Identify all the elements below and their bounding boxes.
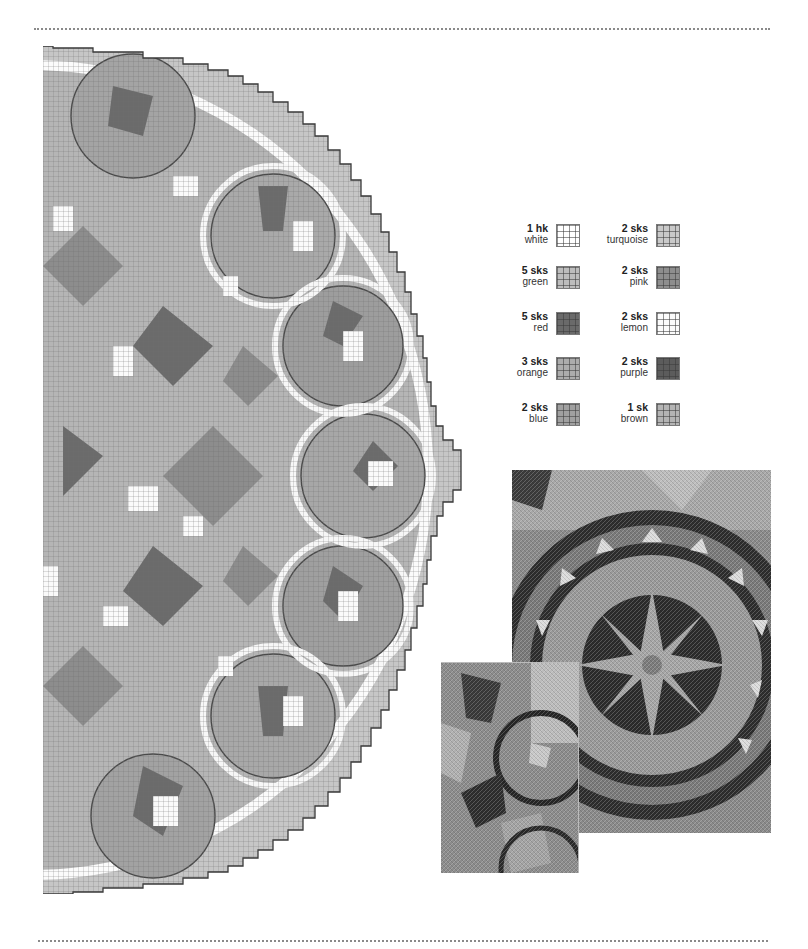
legend-color-name: purple (620, 367, 648, 379)
legend-item-white: 1 hkwhite (500, 222, 580, 252)
legend-qty: 2 sks (622, 264, 648, 276)
legend-item-blue: 2 sksblue (500, 401, 580, 431)
legend-color-name: orange (517, 367, 548, 379)
color-swatch-blue (556, 403, 580, 426)
color-swatch-red (556, 312, 580, 335)
legend-color-name: blue (522, 413, 548, 425)
legend-color-name: red (522, 322, 548, 334)
needlepoint-chart (43, 46, 468, 894)
top-dotted-rule (34, 28, 770, 30)
legend-item-lemon: 2 skslemon (600, 310, 680, 340)
color-swatch-lemon (656, 312, 680, 335)
legend-item-red: 5 sksred (500, 310, 580, 340)
color-swatch-turquoise (656, 224, 680, 247)
legend-item-turquoise: 2 sksturquoise (600, 222, 680, 252)
legend-qty: 2 sks (621, 310, 648, 322)
legend-qty: 3 sks (517, 355, 548, 367)
color-swatch-brown (656, 403, 680, 426)
legend-qty: 5 sks (522, 310, 548, 322)
legend-color-name: green (522, 276, 548, 288)
legend-item-orange: 3 sksorange (500, 355, 580, 385)
legend-color-name: white (525, 234, 548, 246)
legend-qty: 5 sks (522, 264, 548, 276)
legend-color-name: pink (622, 276, 648, 288)
legend-color-name: brown (621, 413, 648, 425)
legend-item-brown: 1 skbrown (600, 401, 680, 431)
legend-qty: 2 sks (620, 355, 648, 367)
legend-color-name: turquoise (607, 234, 648, 246)
color-swatch-orange (556, 357, 580, 380)
color-swatch-white (556, 224, 580, 247)
legend-item-purple: 2 skspurple (600, 355, 680, 385)
legend-item-pink: 2 skspink (600, 264, 680, 294)
legend-qty: 1 hk (525, 222, 548, 234)
color-swatch-green (556, 266, 580, 289)
legend-color-name: lemon (621, 322, 648, 334)
legend-item-green: 5 sksgreen (500, 264, 580, 294)
legend-qty: 2 sks (522, 401, 548, 413)
color-swatch-pink (656, 266, 680, 289)
legend-qty: 1 sk (621, 401, 648, 413)
legend-qty: 2 sks (607, 222, 648, 234)
stitched-detail-photo-small (441, 662, 579, 873)
color-swatch-purple (656, 357, 680, 380)
bottom-dotted-rule (38, 940, 768, 942)
